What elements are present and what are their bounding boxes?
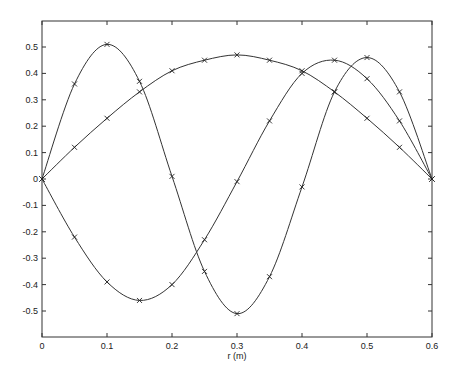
line-chart: 00.10.20.30.40.50.6-0.5-0.4-0.3-0.2-0.10…: [0, 0, 458, 380]
y-tick-label: 0.3: [25, 95, 38, 105]
y-tick-label: 0.4: [25, 68, 38, 78]
y-tick-label: -0.1: [22, 200, 38, 210]
x-tick-label: 0: [39, 341, 44, 351]
x-tick-label: 0.2: [166, 341, 179, 351]
y-tick-label: 0: [33, 174, 38, 184]
x-tick-label: 0.5: [361, 341, 374, 351]
x-tick-label: 0.3: [231, 341, 244, 351]
y-tick-label: -0.3: [22, 253, 38, 263]
plot-area: [42, 21, 432, 337]
x-tick-label: 0.4: [296, 341, 309, 351]
y-tick-label: 0.1: [25, 148, 38, 158]
x-axis-label: r (m): [228, 351, 247, 361]
y-tick-label: 0.2: [25, 121, 38, 131]
y-tick-label: -0.5: [22, 306, 38, 316]
y-tick-label: 0.5: [25, 42, 38, 52]
x-tick-label: 0.6: [426, 341, 439, 351]
y-tick-label: -0.2: [22, 227, 38, 237]
y-tick-label: -0.4: [22, 280, 38, 290]
x-tick-label: 0.1: [101, 341, 114, 351]
